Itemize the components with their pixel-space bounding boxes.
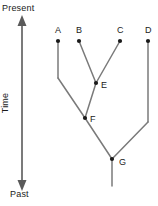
branch-F-to-G <box>85 118 112 159</box>
tip-dot-c <box>118 39 122 43</box>
phylogenetic-tree-diagram: Present Time Past ABCDEFG <box>0 0 158 206</box>
node-dot-f <box>83 116 87 120</box>
tip-dot-a <box>56 39 60 43</box>
tip-label-a: A <box>55 25 61 35</box>
node-dot-g <box>110 157 114 161</box>
branch-A-to-F <box>58 78 85 118</box>
tree-canvas: ABCDEFG <box>0 0 158 206</box>
tip-label-b: B <box>76 25 82 35</box>
branch-C-to-E <box>96 41 120 83</box>
time-axis <box>18 15 27 191</box>
branch-B-to-E <box>79 41 96 83</box>
arrow-up-icon <box>18 15 27 26</box>
node-label-g: G <box>119 157 126 167</box>
branch-D-to-G <box>112 122 148 159</box>
tip-label-c: C <box>117 25 124 35</box>
node-dot-e <box>94 81 98 85</box>
tip-dot-d <box>146 39 150 43</box>
tip-dot-b <box>77 39 81 43</box>
node-label-e: E <box>101 80 107 90</box>
node-label-f: F <box>90 114 96 124</box>
node-dots <box>56 39 150 161</box>
tip-label-d: D <box>145 25 152 35</box>
branch-E-to-F <box>85 83 96 118</box>
branches <box>58 41 148 186</box>
arrow-down-icon <box>18 180 27 191</box>
